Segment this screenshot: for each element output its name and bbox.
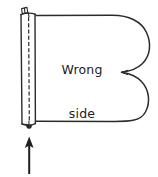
fabric-label-line-1: Wrong [52,63,112,78]
fabric-label-line-2: side [52,107,112,122]
band-top-tab-crease [24,8,25,13]
sewing-diagram-figure: Wrong side [0,0,158,177]
band-top-tab-stitch-tail [28,13,29,17]
band-left-edge [21,15,22,125]
fabric-wrong-side-label: Wrong side [52,34,112,150]
band-stitch-line [29,18,30,122]
